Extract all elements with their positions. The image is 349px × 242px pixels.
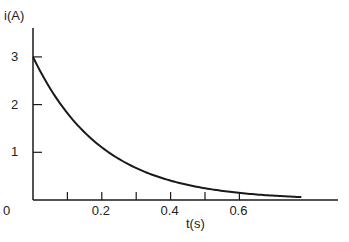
y-tick-label: 1 [11, 145, 18, 158]
current-decay-curve [33, 57, 301, 197]
axes [33, 28, 338, 200]
x-axis-label: t(s) [186, 217, 205, 230]
x-tick-label: 0 [3, 204, 10, 217]
y-axis-label: i(A) [4, 9, 24, 22]
y-tick-label: 2 [11, 98, 18, 111]
x-tick-label: 0.2 [92, 204, 110, 217]
x-tick-label: 0.4 [161, 204, 179, 217]
ticks [33, 57, 239, 200]
x-tick-label: 0.6 [229, 204, 247, 217]
y-tick-label: 3 [11, 50, 18, 63]
